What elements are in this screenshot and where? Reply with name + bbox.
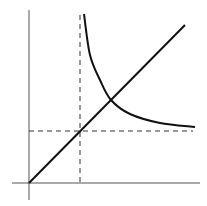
- increasing-line: [29, 25, 185, 183]
- chart: [0, 0, 207, 206]
